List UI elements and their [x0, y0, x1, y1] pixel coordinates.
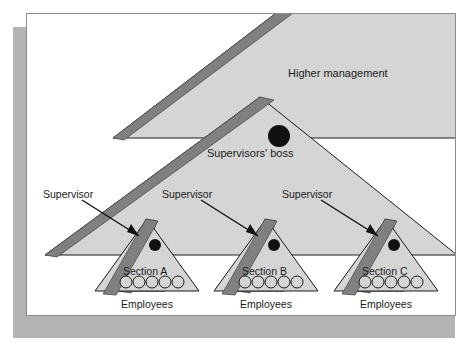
- section-c-name-label: Section C: [362, 266, 408, 277]
- employee-circle: [372, 276, 384, 288]
- section-a-employees-label: Employees: [121, 299, 173, 310]
- employee-circle: [359, 276, 371, 288]
- employee-circle: [159, 276, 171, 288]
- section-c-supervisor-dot: [388, 239, 400, 251]
- section-b-employees-label: Employees: [240, 299, 292, 310]
- section-b-supervisor-label: Supervisor: [162, 189, 212, 200]
- employee-circle: [172, 276, 184, 288]
- section-c-employee-circles: [359, 276, 423, 288]
- higher-management-label: Higher management: [288, 68, 388, 79]
- employee-circle: [133, 276, 145, 288]
- employee-circle: [291, 276, 303, 288]
- section-a-supervisor-dot: [149, 239, 161, 251]
- employee-circle: [239, 276, 251, 288]
- figure-canvas: Higher management Supervisors' boss Supe…: [0, 0, 469, 351]
- figure-page: Higher management Supervisors' boss Supe…: [26, 13, 456, 316]
- section-a-name-label: Section A: [123, 266, 167, 277]
- employee-circle: [385, 276, 397, 288]
- employee-circle: [252, 276, 264, 288]
- supervisors-boss-person-dot: [268, 125, 290, 147]
- supervisors-boss-label: Supervisors' boss: [207, 148, 293, 159]
- employee-circle: [146, 276, 158, 288]
- section-a-supervisor-label: Supervisor: [43, 189, 93, 200]
- section-b-employee-circles: [239, 276, 303, 288]
- section-b-supervisor-dot: [268, 239, 280, 251]
- employee-circle: [411, 276, 423, 288]
- employee-circle: [120, 276, 132, 288]
- section-b-name-label: Section B: [242, 266, 287, 277]
- section-c-employees-label: Employees: [360, 299, 412, 310]
- section-a-employee-circles: [120, 276, 184, 288]
- employee-circle: [265, 276, 277, 288]
- section-c-supervisor-label: Supervisor: [282, 189, 332, 200]
- employee-circle: [398, 276, 410, 288]
- employee-circle: [278, 276, 290, 288]
